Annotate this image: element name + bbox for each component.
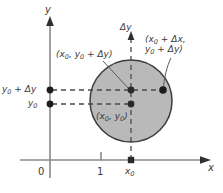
point-center bbox=[128, 101, 135, 108]
point-top-center bbox=[128, 87, 135, 94]
point-label-top-center: (x0, y0 + Δy) bbox=[56, 49, 112, 59]
y-tick-y0-plus-dy-sub: 0 bbox=[7, 88, 11, 96]
point-label-right-l2-rest: + Δy) bbox=[154, 44, 182, 54]
delta-y-coordinate-diagram: y x Δy (x0 + Δx, y0 + Δy) (x0, y0 + Δy) … bbox=[0, 0, 223, 193]
point-label-center-sub1: 0 bbox=[105, 115, 109, 123]
point-label-center-base: (x bbox=[96, 111, 105, 121]
point-label-center-end: ) bbox=[124, 111, 128, 121]
y-axis-dot-y0 bbox=[47, 101, 54, 108]
point-label-top-center-base: (x bbox=[56, 49, 65, 59]
delta-y-axis-label: Δy bbox=[120, 22, 131, 32]
point-label-top-center-mid: , y bbox=[69, 49, 80, 59]
point-label-center-sub2: 0 bbox=[120, 115, 124, 123]
point-label-top-center-end: + Δy) bbox=[84, 49, 112, 59]
point-label-right-l2-sub: 0 bbox=[150, 48, 154, 56]
diagram-canvas bbox=[0, 0, 223, 193]
x-marker-label-x0: x0 bbox=[125, 166, 134, 176]
x-tick-label-zero: 0 bbox=[38, 166, 44, 178]
y-axis-dot-y0-plus-dy bbox=[47, 87, 54, 94]
point-label-right-line2: y0 + Δy) bbox=[145, 44, 186, 54]
point-label-right-line1: (x0 + Δx, bbox=[145, 34, 186, 44]
point-label-top-center-sub1: 0 bbox=[65, 53, 69, 61]
y-tick-y0-plus-dy-rest: + Δy bbox=[11, 84, 36, 94]
x-marker-x0-sub: 0 bbox=[130, 170, 134, 178]
y-tick-label-y0-plus-dy: y0 + Δy bbox=[2, 84, 36, 94]
x-axis-label: x bbox=[208, 162, 214, 174]
point-label-center-mid: , y bbox=[109, 111, 120, 121]
y-axis-arrowhead bbox=[46, 16, 54, 26]
point-label-right-l1-rest: + Δx, bbox=[158, 34, 186, 44]
delta-y-axis-arrowhead bbox=[128, 31, 135, 40]
y-tick-label-y0: y0 bbox=[28, 98, 37, 108]
point-label-right-l1-base: (x bbox=[145, 34, 154, 44]
x-tick-label-one: 1 bbox=[97, 166, 103, 178]
point-label-right-l1-sub: 0 bbox=[154, 38, 158, 46]
y-axis-label: y bbox=[45, 4, 51, 16]
point-label-right: (x0 + Δx, y0 + Δy) bbox=[145, 34, 186, 55]
point-label-center: (x0, y0) bbox=[96, 111, 128, 121]
y-tick-y0-sub: 0 bbox=[33, 102, 37, 110]
point-label-top-center-sub2: 0 bbox=[80, 53, 84, 61]
point-right bbox=[159, 86, 167, 94]
x-axis-marker-x0 bbox=[128, 157, 134, 163]
